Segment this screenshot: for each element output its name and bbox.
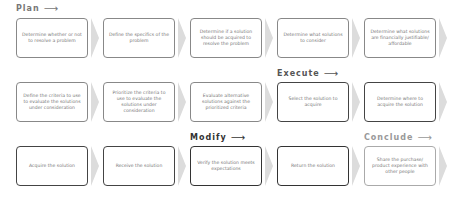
chevron-right-icon bbox=[265, 82, 273, 122]
arrow-right-icon: ⟶ bbox=[231, 132, 244, 143]
phase-name: Plan bbox=[16, 4, 40, 13]
chevron-right-icon bbox=[178, 82, 186, 122]
step-text: Prioritize the criteria to use to evalua… bbox=[104, 90, 174, 115]
step-box: Evaluate alternative solutions against t… bbox=[190, 82, 262, 122]
step-box: Determine if a solution should be acquir… bbox=[190, 18, 262, 58]
step-box: Determine what solutions are financially… bbox=[364, 18, 436, 58]
step-text: Select the solution to acquire bbox=[278, 96, 348, 108]
step-text: Evaluate alternative solutions against t… bbox=[191, 93, 261, 112]
step-box: Prioritize the criteria to use to evalua… bbox=[103, 82, 175, 122]
chevron-right-icon bbox=[178, 18, 186, 58]
step-text: Verify the solution meets expectations bbox=[191, 160, 261, 172]
step-text: Share the purchase/ product experience w… bbox=[365, 157, 435, 176]
chevron-right-icon bbox=[178, 146, 186, 186]
step-box: Verify the solution meets expectations bbox=[190, 146, 262, 186]
step-text: Define the specifics of the problem bbox=[104, 32, 174, 44]
step-box: Determine whether or not to resolve a pr… bbox=[16, 18, 88, 58]
chevron-right-icon bbox=[91, 82, 99, 122]
chevron-right-icon bbox=[91, 146, 99, 186]
chevron-right-icon bbox=[439, 82, 447, 122]
arrow-right-icon: ⟶ bbox=[44, 3, 57, 14]
step-box: Share the purchase/ product experience w… bbox=[364, 146, 436, 186]
step-box: Acquire the solution bbox=[16, 146, 88, 186]
phase-name: Execute bbox=[277, 69, 320, 78]
chevron-right-icon bbox=[352, 82, 360, 122]
chevron-right-icon bbox=[265, 18, 273, 58]
step-text: Determine what solutions are financially… bbox=[365, 29, 435, 48]
phase-name: Modify bbox=[190, 133, 227, 142]
arrow-right-icon: ⟶ bbox=[417, 132, 430, 143]
chevron-right-icon bbox=[91, 18, 99, 58]
step-text: Determine where to acquire the solution bbox=[365, 96, 435, 108]
step-box: Return the solution bbox=[277, 146, 349, 186]
arrow-right-icon: ⟶ bbox=[324, 68, 337, 79]
step-text: Define the criteria to use to evaluate t… bbox=[17, 93, 87, 112]
chevron-right-icon bbox=[352, 146, 360, 186]
chevron-right-icon bbox=[265, 146, 273, 186]
step-text: Acquire the solution bbox=[25, 163, 79, 169]
chevron-right-icon bbox=[439, 18, 447, 58]
step-box: Define the criteria to use to evaluate t… bbox=[16, 82, 88, 122]
phase-label-modify: Modify ⟶ bbox=[190, 132, 244, 143]
chevron-right-icon bbox=[439, 146, 447, 186]
phase-label-execute: Execute ⟶ bbox=[277, 68, 337, 79]
step-text: Determine what solutions to consider bbox=[278, 32, 348, 44]
chevron-right-icon bbox=[352, 18, 360, 58]
step-box: Receive the solution bbox=[103, 146, 175, 186]
step-box: Determine where to acquire the solution bbox=[364, 82, 436, 122]
phase-label-plan: Plan ⟶ bbox=[16, 3, 57, 14]
step-box: Define the specifics of the problem bbox=[103, 18, 175, 58]
step-box: Select the solution to acquire bbox=[277, 82, 349, 122]
phase-name: Conclude bbox=[364, 133, 413, 142]
step-text: Determine whether or not to resolve a pr… bbox=[17, 32, 87, 44]
step-text: Return the solution bbox=[287, 163, 339, 169]
phase-label-conclude: Conclude ⟶ bbox=[364, 132, 431, 143]
step-box: Determine what solutions to consider bbox=[277, 18, 349, 58]
step-text: Determine if a solution should be acquir… bbox=[191, 29, 261, 48]
step-text: Receive the solution bbox=[112, 163, 167, 169]
